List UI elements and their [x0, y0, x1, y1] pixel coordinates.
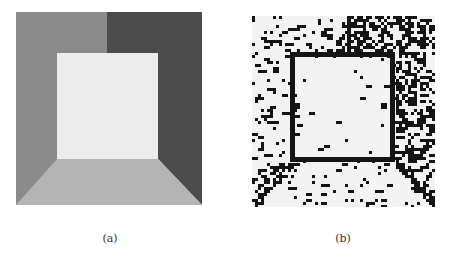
figure-panel-a [16, 12, 202, 205]
caption-a: (a) [90, 232, 130, 245]
figure-panel-b [252, 16, 435, 207]
grayscale-box-image [16, 12, 202, 205]
binary-edge-image [252, 16, 435, 207]
caption-b: (b) [323, 232, 363, 245]
back-wall-region [57, 53, 158, 159]
